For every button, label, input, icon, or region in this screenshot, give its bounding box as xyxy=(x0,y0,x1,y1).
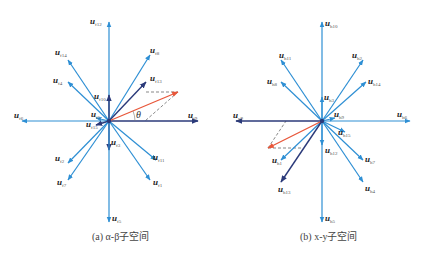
vector-label-h14: uh14 xyxy=(368,76,381,87)
vector-diagram-canvas: uf12uf14uf4uf10uf8uf13uf9uf6uf5uf15uf3uf… xyxy=(0,0,424,253)
dashed-guide-line xyxy=(145,92,178,121)
x-y-subspace-panel: uh10uh11uh8uh3uh2uh14uh9uh6uy9uh15uh12uh… xyxy=(233,18,410,224)
vector-label-h15: uh15 xyxy=(338,127,351,138)
vector-label-f12: uf12 xyxy=(90,16,102,27)
vector-label-h9: uh9 xyxy=(334,109,345,120)
vector-label-h6: uh6 xyxy=(397,109,408,120)
vector-label-h5: uh5 xyxy=(325,213,336,224)
vector-label-h8: uh8 xyxy=(267,76,278,87)
vector-label-h11: uh11 xyxy=(279,50,292,61)
vector-label-f3: uf3 xyxy=(111,137,121,148)
vector-h11 xyxy=(281,60,322,121)
vector-label-y9: uy9 xyxy=(233,110,244,121)
alpha-beta-subspace-panel: uf12uf14uf4uf10uf8uf13uf9uf6uf5uf15uf3uf… xyxy=(14,16,198,224)
vector-label-f10: uf10 xyxy=(94,91,106,102)
vector-label-h1: uh1 xyxy=(272,155,283,166)
vector-label-f5: uf5 xyxy=(91,109,101,120)
origin-dot xyxy=(107,119,111,123)
vector-label-f8: uf8 xyxy=(150,45,160,56)
vector-label-f11: uf11 xyxy=(153,152,165,163)
vector-f14 xyxy=(68,60,109,121)
vector-h13 xyxy=(281,121,322,182)
vector-label-f5: uf5 xyxy=(112,213,122,224)
theta-label: θ xyxy=(136,109,141,120)
vector-label-h2: uh2 xyxy=(352,50,363,61)
vector-label-h12: uh12 xyxy=(325,145,338,156)
origin-dot xyxy=(320,119,324,123)
vector-f8 xyxy=(109,55,150,121)
caption-alpha-beta: (a) α-β子空间 xyxy=(92,230,149,243)
vector-label-f9: uf9 xyxy=(188,110,198,121)
vector-label-h13: uh13 xyxy=(278,184,291,195)
reference-vector xyxy=(109,92,178,121)
vector-h8 xyxy=(281,82,322,121)
vector-label-h4: uh4 xyxy=(365,183,376,194)
vector-label-f13: uf13 xyxy=(150,73,162,84)
caption-x-y: (b) x-y子空间 xyxy=(300,230,358,243)
vector-label-f1: uf1 xyxy=(153,177,163,188)
vector-label-f7: uf7 xyxy=(57,177,67,188)
vector-label-h7: uh7 xyxy=(365,154,376,165)
reference-vector xyxy=(268,121,322,148)
vector-label-f14: uf14 xyxy=(55,47,67,58)
vector-label-f6: uf6 xyxy=(14,110,24,121)
vector-label-h10: uh10 xyxy=(325,18,338,29)
vector-label-h3: uh3 xyxy=(324,92,335,103)
angle-arc xyxy=(133,111,135,121)
vector-label-f4: uf4 xyxy=(53,75,63,86)
vector-f7 xyxy=(68,121,109,180)
vector-label-f2: uf2 xyxy=(55,153,65,164)
vector-h1 xyxy=(281,121,322,160)
